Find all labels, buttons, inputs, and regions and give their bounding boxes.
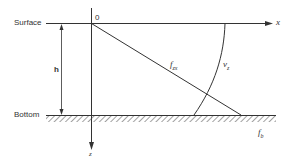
x-axis-arrow-icon	[265, 21, 273, 26]
fb-label: fb	[258, 127, 264, 139]
z-axis-arrow-icon	[89, 142, 94, 150]
origin-label: 0	[95, 13, 99, 22]
diagram-canvas: Surface Bottom 0 h x z fzx vz fb	[0, 0, 288, 160]
h-arrow-up-icon	[60, 24, 64, 30]
diagram-lines	[0, 0, 288, 160]
vz-label-sub: z	[227, 65, 229, 71]
fzx-label: fzx	[170, 59, 178, 71]
fzx-line	[92, 24, 242, 116]
surface-label: Surface	[14, 18, 42, 27]
bottom-label: Bottom	[14, 110, 39, 119]
fzx-label-sub: zx	[173, 65, 178, 71]
h-arrow-down-icon	[60, 109, 64, 115]
vz-label: vz	[223, 59, 229, 71]
z-axis-label: z	[89, 150, 92, 158]
seabed-hatch	[46, 116, 276, 122]
x-axis-label: x	[276, 17, 280, 27]
fb-label-sub: b	[261, 133, 264, 139]
vz-curve	[194, 24, 225, 116]
h-label: h	[54, 65, 59, 74]
